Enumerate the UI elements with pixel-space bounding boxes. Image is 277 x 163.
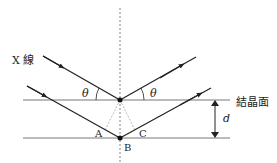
- theta-arc-right: [141, 88, 144, 100]
- arrow-icon: [27, 86, 45, 96]
- spacing-label: d: [223, 112, 230, 125]
- point-c-label: C: [139, 128, 147, 139]
- point-a-label: A: [95, 128, 102, 139]
- xray-label: X 線: [12, 51, 34, 67]
- theta-left-label: θ: [82, 87, 89, 100]
- reflected-ray-upper: [120, 57, 196, 100]
- arrow-up-icon: [211, 100, 219, 106]
- point-b-label: B: [124, 142, 131, 153]
- theta-right-label: θ: [150, 87, 157, 100]
- theta-arc-left: [96, 88, 99, 100]
- scatter-point-top: [118, 98, 123, 103]
- perp-to-a: [105, 100, 120, 130]
- scatter-point-b: [118, 136, 123, 141]
- arrow-icon: [43, 56, 62, 67]
- crystal-plane-label: 結晶面: [236, 93, 269, 109]
- arrow-down-icon: [211, 132, 219, 138]
- arrow-icon: [160, 65, 182, 78]
- perp-to-c: [120, 100, 135, 130]
